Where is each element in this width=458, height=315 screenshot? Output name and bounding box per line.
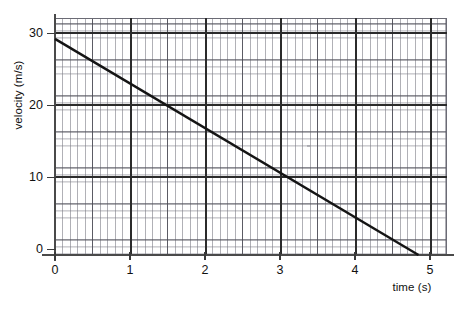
x-axis-title: time (s) <box>372 281 452 293</box>
medium-gridlines <box>55 18 447 255</box>
x-axis-line <box>42 254 454 256</box>
major-gridline-y-10 <box>55 176 447 178</box>
plot-area <box>55 18 447 255</box>
x-tick-label-2: 2 <box>193 264 217 277</box>
x-tick-4 <box>354 252 356 260</box>
major-gridline-y-20 <box>55 104 447 106</box>
major-gridline-x-1 <box>130 18 132 255</box>
major-gridline-x-3 <box>280 18 282 255</box>
x-tick-1 <box>129 252 131 260</box>
x-tick-5 <box>429 252 431 260</box>
x-tick-3 <box>279 252 281 260</box>
x-tick-label-3: 3 <box>268 264 292 277</box>
plot-top-border <box>55 18 447 19</box>
y-tick-0 <box>47 249 56 251</box>
major-gridline-x-2 <box>205 18 207 255</box>
velocity-time-graph: 30 20 10 0 0 1 2 3 4 5 velocity (m/s) ti… <box>0 0 458 315</box>
x-tick-label-5: 5 <box>418 264 442 277</box>
major-gridline-x-4 <box>355 18 357 255</box>
x-tick-label-4: 4 <box>343 264 367 277</box>
paper-speck <box>307 145 310 147</box>
plot-right-border <box>446 18 447 255</box>
x-tick-0 <box>54 252 56 260</box>
x-tick-2 <box>204 252 206 260</box>
y-tick-30 <box>47 33 56 35</box>
x-tick-label-1: 1 <box>118 264 142 277</box>
y-tick-20 <box>47 105 56 107</box>
x-tick-label-0: 0 <box>43 264 67 277</box>
major-gridline-y-30 <box>55 32 447 34</box>
y-tick-label-10: 10 <box>13 171 43 184</box>
major-gridline-x-5 <box>430 18 432 255</box>
y-axis-line <box>54 14 56 261</box>
y-axis-title: velocity (m/s) <box>12 35 24 155</box>
y-tick-10 <box>47 177 56 179</box>
y-tick-label-0: 0 <box>13 243 43 256</box>
